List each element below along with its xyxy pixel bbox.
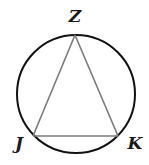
- vertex-label-J: J: [12, 133, 24, 153]
- diagram-canvas: Z J K: [0, 0, 149, 165]
- vertex-label-K: K: [127, 133, 144, 153]
- segment-ZJ: [33, 35, 75, 136]
- segment-ZK: [75, 35, 118, 136]
- circle-triangle-diagram: Z J K: [0, 0, 149, 165]
- vertex-label-Z: Z: [68, 6, 82, 26]
